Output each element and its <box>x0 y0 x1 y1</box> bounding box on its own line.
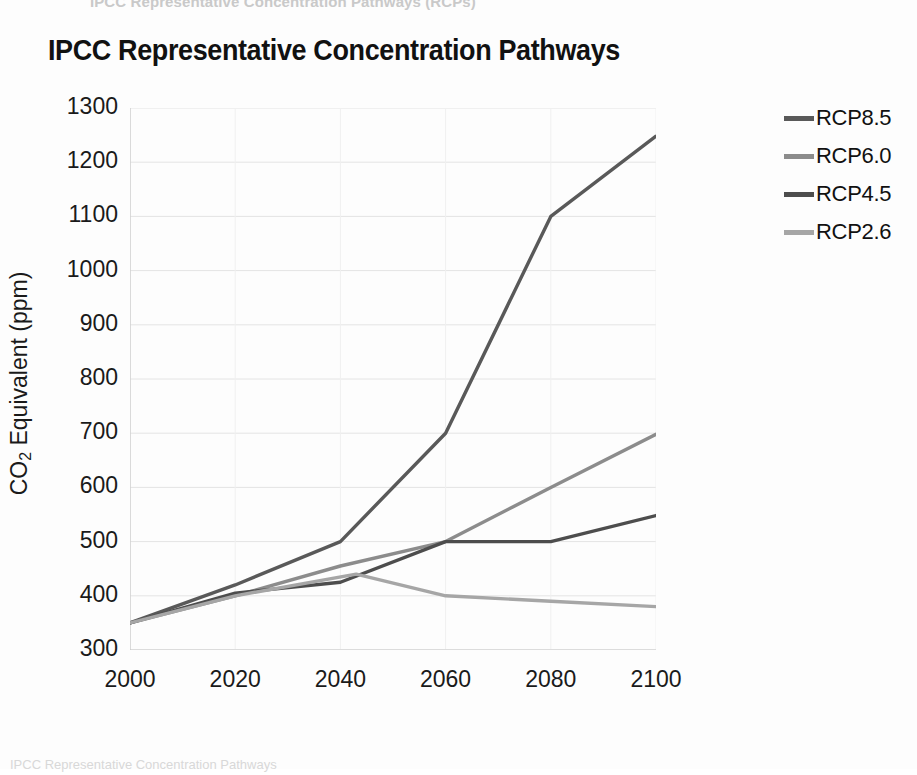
y-axis-title-subscript: 2 <box>17 452 34 461</box>
x-tick-label: 2040 <box>290 668 390 691</box>
y-tick-label: 300 <box>34 637 118 660</box>
y-tick-label: 1300 <box>34 95 118 118</box>
y-tick-label: 800 <box>34 366 118 389</box>
plot-area <box>130 108 656 650</box>
legend-item-rcp6-0[interactable]: RCP6.0 <box>784 137 914 175</box>
y-tick-label: 1000 <box>34 258 118 281</box>
legend-label: RCP6.0 <box>816 143 891 169</box>
y-tick-label: 600 <box>34 474 118 497</box>
y-tick-label: 1200 <box>34 149 118 172</box>
y-axis-title-main: CO <box>6 461 32 496</box>
series-line-rcp4-5 <box>130 516 656 623</box>
x-tick-label: 2060 <box>396 668 496 691</box>
legend-swatch-icon <box>784 230 814 235</box>
legend-item-rcp2-6[interactable]: RCP2.6 <box>784 213 914 251</box>
plot-svg <box>130 108 656 650</box>
series-line-rcp8-5 <box>130 136 656 623</box>
y-tick-label: 400 <box>34 583 118 606</box>
legend-label: RCP4.5 <box>816 181 891 207</box>
y-tick-label: 900 <box>34 312 118 335</box>
legend-label: RCP8.5 <box>816 105 891 131</box>
chart-title: IPCC Representative Concentration Pathwa… <box>48 34 643 67</box>
chart-legend: RCP8.5RCP6.0RCP4.5RCP2.6 <box>784 99 914 251</box>
y-axis-title-rest: Equivalent (ppm) <box>6 272 32 452</box>
y-axis-title: CO2 Equivalent (ppm) <box>6 104 33 664</box>
y-tick-label: 700 <box>34 420 118 443</box>
cropped-footer-text: IPCC Representative Concentration Pathwa… <box>10 757 710 775</box>
legend-swatch-icon <box>784 116 814 121</box>
legend-item-rcp4-5[interactable]: RCP4.5 <box>784 175 914 213</box>
y-tick-label: 1100 <box>34 203 118 226</box>
series-line-rcp2-6 <box>130 574 656 623</box>
legend-label: RCP2.6 <box>816 219 891 245</box>
y-tick-label: 500 <box>34 529 118 552</box>
legend-swatch-icon <box>784 192 814 197</box>
legend-item-rcp8-5[interactable]: RCP8.5 <box>784 99 914 137</box>
cropped-header-text: IPCC Representative Concentration Pathwa… <box>90 0 850 13</box>
legend-swatch-icon <box>784 154 814 159</box>
x-tick-label: 2000 <box>80 668 180 691</box>
x-tick-label: 2020 <box>185 668 285 691</box>
x-tick-label: 2100 <box>606 668 706 691</box>
x-tick-label: 2080 <box>501 668 601 691</box>
